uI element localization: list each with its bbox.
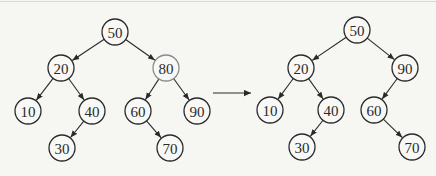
after-node-50: 50: [344, 17, 370, 43]
before-edge-80-to-60: [145, 79, 159, 100]
after-node-90: 90: [392, 55, 418, 81]
node-label: 50: [108, 25, 123, 41]
before-edge-50-to-20: [72, 39, 104, 60]
node-label: 30: [295, 140, 310, 156]
node-label: 10: [21, 104, 36, 120]
node-label: 40: [324, 103, 339, 119]
before-edge-40-to-30: [71, 121, 84, 137]
node-label: 60: [367, 103, 382, 119]
node-label: 60: [131, 104, 146, 120]
after-edge-50-to-90: [367, 38, 394, 60]
node-label: 70: [405, 140, 420, 156]
after-node-30: 30: [289, 134, 315, 160]
before-node-70: 70: [157, 135, 183, 161]
before-edge-60-to-70: [147, 121, 162, 138]
after-edge-90-to-60: [382, 78, 397, 99]
before-edge-20-to-40: [69, 79, 85, 101]
after-edge-20-to-10: [278, 78, 293, 99]
before-node-60: 60: [125, 98, 151, 124]
before-node-20: 20: [48, 55, 74, 81]
after-edge-40-to-30: [310, 120, 323, 136]
after-edge-60-to-70: [383, 119, 402, 138]
before-node-10: 10: [15, 98, 41, 124]
after-edge-20-to-40: [309, 79, 324, 99]
node-label: 30: [55, 141, 70, 157]
node-label: 40: [85, 104, 100, 120]
node-label: 20: [294, 61, 309, 77]
node-label: 90: [398, 61, 413, 77]
after-edge-50-to-20: [312, 37, 346, 60]
after-node-40: 40: [318, 97, 344, 123]
before-edge-50-to-80: [126, 39, 155, 60]
after-node-20: 20: [288, 55, 314, 81]
before-edge-20-to-10: [36, 78, 53, 100]
before-edge-80-to-90: [174, 79, 190, 101]
after-tree-edges: [278, 37, 402, 137]
after-node-70: 70: [399, 134, 425, 160]
before-node-40: 40: [79, 98, 105, 124]
node-label: 10: [263, 103, 278, 119]
before-node-90: 90: [184, 98, 210, 124]
after-tree: 5020901040603070: [257, 17, 425, 160]
node-label: 70: [163, 141, 178, 157]
node-label: 50: [350, 23, 365, 39]
node-label: 20: [54, 61, 69, 77]
before-node-30: 30: [49, 135, 75, 161]
after-node-10: 10: [257, 97, 283, 123]
node-label: 90: [190, 104, 205, 120]
before-node-50: 50: [102, 19, 128, 45]
bst-deletion-diagram: 502080104060903070 5020901040603070: [0, 0, 436, 176]
before-node-80: 80: [153, 55, 179, 81]
before-tree-edges: [36, 39, 189, 138]
node-label: 80: [159, 61, 174, 77]
diagram-canvas: 502080104060903070 5020901040603070: [0, 0, 436, 176]
after-node-60: 60: [361, 97, 387, 123]
